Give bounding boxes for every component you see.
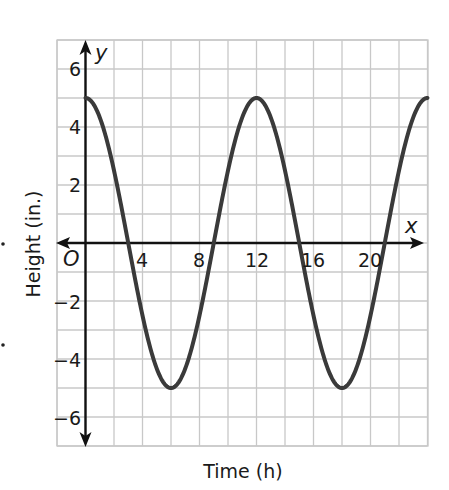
y-axis-title: Height (in.) bbox=[22, 190, 44, 297]
x-tick-label: 16 bbox=[301, 249, 325, 271]
origin-label: O bbox=[63, 247, 80, 271]
y-tick-label: −4 bbox=[53, 349, 81, 371]
y-tick-label: −6 bbox=[53, 407, 81, 429]
x-tick-label: 8 bbox=[193, 249, 205, 271]
y-axis-letter: y bbox=[94, 41, 108, 65]
x-axis-title: Time (h) bbox=[202, 460, 282, 482]
x-tick-label: 20 bbox=[358, 249, 382, 271]
sine-chart: y x O 4 8 12 16 20 6 4 2 −2 −4 −6 Time (… bbox=[0, 0, 449, 490]
y-tick-label: 2 bbox=[69, 174, 81, 196]
y-tick-label: −2 bbox=[53, 291, 81, 313]
y-tick-label: 6 bbox=[69, 58, 81, 80]
y-tick-label: 4 bbox=[69, 116, 81, 138]
x-tick-label: 4 bbox=[136, 249, 148, 271]
margin-dot bbox=[1, 343, 5, 347]
x-tick-label: 12 bbox=[245, 249, 269, 271]
x-axis-letter: x bbox=[404, 214, 418, 238]
margin-dot bbox=[1, 242, 5, 246]
